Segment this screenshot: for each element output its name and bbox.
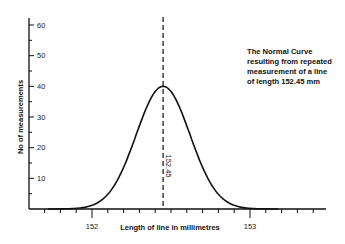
normal-curve-chart: 102030405060 152153 152.45 Length of lin… — [0, 0, 345, 244]
x-tick-label: 152 — [86, 222, 99, 231]
x-axis-label: Length of line in millimetres — [120, 223, 220, 232]
y-tick-label: 60 — [37, 21, 45, 30]
y-axis-label: No of measurements — [16, 80, 25, 154]
y-tick-label: 30 — [37, 113, 45, 122]
y-tick-label: 10 — [37, 174, 45, 183]
y-tick-label: 20 — [37, 143, 45, 152]
curve-annotation: The Normal Curve resulting from repeated… — [247, 47, 332, 87]
y-tick-label: 40 — [37, 82, 45, 91]
y-axis-ticks: 102030405060 — [29, 21, 45, 194]
mean-label: 152.45 — [164, 155, 173, 178]
x-tick-label: 153 — [244, 222, 257, 231]
y-tick-label: 50 — [37, 51, 45, 60]
